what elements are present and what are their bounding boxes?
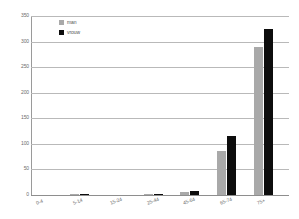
x-axis-tick-label: 0-4 (35, 198, 44, 206)
legend-item: man (59, 18, 80, 26)
bar-group (105, 16, 142, 195)
bar-group (178, 16, 215, 195)
y-axis-tick-label: 200 (3, 90, 29, 95)
x-axis-tick-label: 15-24 (109, 196, 123, 206)
chart-legend: manvrouw (59, 18, 80, 38)
x-axis-tick-label: 25-44 (146, 196, 160, 206)
legend-item: vrouw (59, 28, 80, 36)
bar-vrouw (264, 29, 273, 195)
y-axis-tick-label: 350 (3, 13, 29, 18)
bar-vrouw (154, 194, 163, 195)
bar-man (254, 47, 263, 195)
x-axis-tick-label: 5-14 (72, 197, 83, 206)
bar-vrouw (80, 194, 89, 195)
y-axis-tick-label: 50 (3, 166, 29, 171)
plot-area (31, 16, 289, 195)
y-axis-tick-label: 100 (3, 141, 29, 146)
bar-group (68, 16, 105, 195)
y-axis-tick-labels: 350300250200150100500 (0, 0, 29, 219)
bar-group (252, 16, 289, 195)
bar-vrouw (190, 191, 199, 195)
y-axis-tick-label: 250 (3, 64, 29, 69)
x-axis-tick-label: 45-64 (182, 196, 196, 206)
legend-swatch-icon (59, 20, 64, 25)
x-axis-tick-labels: 0-45-1415-2425-4445-6465-7475+ (31, 196, 289, 219)
bar-chart: 350300250200150100500 0-45-1415-2425-444… (0, 0, 299, 219)
bar-group (142, 16, 179, 195)
bar-group (31, 16, 68, 195)
legend-swatch-icon (59, 30, 64, 35)
legend-label: man (67, 19, 77, 25)
legend-label: vrouw (67, 29, 80, 35)
x-axis-tick-label: 75+ (256, 197, 266, 205)
bar-man (70, 194, 79, 195)
y-axis-tick-label: 300 (3, 39, 29, 44)
x-axis-tick-label: 65-74 (219, 196, 233, 206)
bars-layer (31, 16, 289, 195)
bar-vrouw (227, 136, 236, 195)
bar-man (217, 151, 226, 195)
bar-man (144, 194, 153, 195)
y-axis-tick-label: 150 (3, 115, 29, 120)
bar-group (215, 16, 252, 195)
y-axis-tick-label: 0 (3, 192, 29, 197)
bar-man (180, 192, 189, 195)
